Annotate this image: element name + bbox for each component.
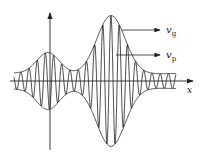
phase-velocity-label: vp [166, 49, 177, 63]
x-axis-label: x [187, 85, 192, 95]
group-velocity-label: vg [166, 24, 177, 38]
wave-packet-diagram: vg vp x [0, 0, 201, 161]
carrier-wave [14, 16, 176, 144]
